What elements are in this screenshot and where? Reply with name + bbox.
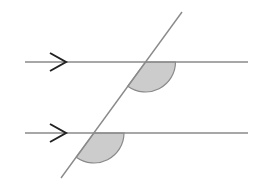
parallel-lines-diagram bbox=[0, 0, 258, 185]
background bbox=[0, 0, 258, 185]
